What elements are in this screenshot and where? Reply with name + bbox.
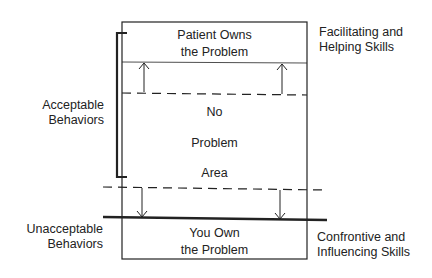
label-line: Facilitating and bbox=[319, 25, 403, 40]
confrontive-skills-label: Confrontive and Influencing Skills bbox=[317, 230, 410, 260]
label-line: Patient Owns bbox=[122, 28, 307, 43]
problem-label: Problem bbox=[122, 136, 307, 151]
label-line: Influencing Skills bbox=[317, 245, 410, 260]
up-arrow-right-icon bbox=[277, 64, 287, 94]
up-arrow-left-icon bbox=[139, 63, 149, 92]
bottom-dashed-line bbox=[103, 187, 327, 190]
area-label: Area bbox=[122, 166, 307, 181]
unacceptable-behaviors-label: Unacceptable Behaviors bbox=[0, 222, 103, 252]
acceptable-behaviors-label: Acceptable Behaviors bbox=[0, 98, 104, 128]
top-dashed-line bbox=[122, 93, 307, 95]
no-label: No bbox=[122, 105, 307, 120]
label-line: the Problem bbox=[122, 45, 307, 60]
label-line: the Problem bbox=[122, 243, 307, 258]
label-line: Unacceptable bbox=[0, 222, 103, 237]
label-line: Helping Skills bbox=[319, 40, 403, 55]
patient-owns-label: Patient Owns the Problem bbox=[122, 28, 307, 60]
down-arrow-left-icon bbox=[137, 188, 147, 217]
down-arrow-right-icon bbox=[275, 190, 285, 219]
bottom-thick-line bbox=[103, 217, 327, 220]
label-line: Acceptable bbox=[0, 98, 104, 113]
label-line: You Own bbox=[122, 226, 307, 241]
label-line: Behaviors bbox=[0, 113, 104, 128]
facilitating-skills-label: Facilitating and Helping Skills bbox=[319, 25, 403, 55]
top-solid-line bbox=[122, 62, 307, 63]
label-line: Confrontive and bbox=[317, 230, 410, 245]
label-line: Behaviors bbox=[0, 237, 103, 252]
you-own-label: You Own the Problem bbox=[122, 226, 307, 258]
